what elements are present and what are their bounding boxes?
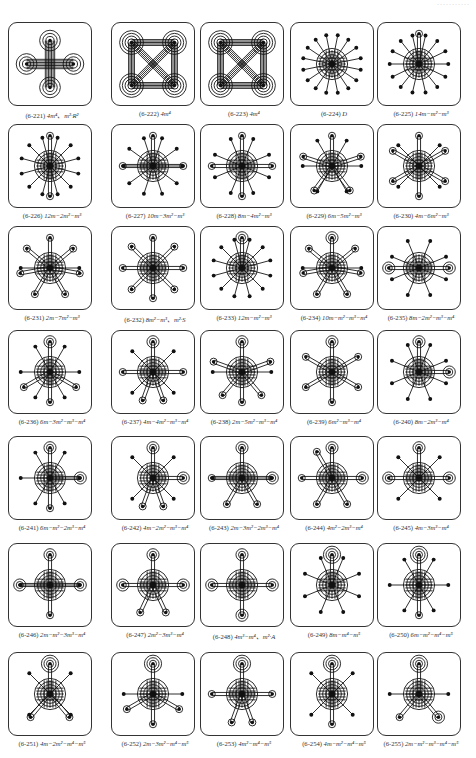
figure-caption: (6-244) 4m²−2m³−m⁴	[284, 524, 384, 531]
figure-diagram	[377, 543, 461, 627]
diagram-icon	[201, 227, 283, 309]
figure-diagram	[200, 436, 284, 520]
figure-diagram	[8, 22, 92, 106]
figure-caption: (6-239) 6m²−m³−m⁴	[284, 418, 384, 425]
figure-formula: 2m−3m²−2m³−m⁴	[230, 524, 279, 531]
figure-formula: 8m−4m²−m³	[238, 212, 272, 219]
figure-formula: 10m−m²−m³−m⁴	[322, 314, 367, 321]
diagram-icon	[378, 23, 460, 105]
diagram-icon	[9, 437, 91, 519]
figure-number: (6-244)	[305, 524, 326, 531]
figure-caption: (6-249) 8m−m⁴−m⁵	[284, 631, 384, 638]
figure-caption: (6-222) 4m⁴	[105, 110, 205, 117]
diagram-icon	[201, 331, 283, 413]
figure-diagram	[200, 226, 284, 310]
figure-diagram	[200, 652, 284, 736]
figure-caption: (6-243) 2m−3m²−2m³−m⁴	[194, 524, 294, 531]
figure-number: (6-222)	[139, 110, 160, 117]
figure-caption: (6-224) D	[284, 110, 384, 117]
figure-formula: 12m−m²−m³	[238, 314, 272, 321]
diagram-icon	[9, 544, 91, 626]
figure-diagram	[377, 226, 461, 310]
figure-formula: 6m−3m²−m³−m⁴	[40, 418, 85, 425]
diagram-icon	[378, 227, 460, 309]
figure-diagram	[111, 436, 195, 520]
figure-diagram	[200, 330, 284, 414]
figure-caption: (6-221) 4m⁴、m²·R²	[2, 110, 102, 120]
figure-number: (6-249)	[308, 631, 329, 638]
figure-caption: (6-252) 2m−3m²−m⁴−m⁵	[105, 740, 205, 747]
figure-formula: 4m−6m²−m³	[415, 212, 449, 219]
diagram-icon	[378, 437, 460, 519]
figure-diagram	[200, 124, 284, 208]
figure-caption: (6-231) 2m−7m²−m³	[2, 314, 102, 321]
figure-caption: (6-254) 4m−m²−m⁴−m⁵	[284, 740, 384, 747]
figure-caption: (6-238) 2m−5m²−m³−m⁴	[194, 418, 294, 425]
diagram-icon	[201, 23, 283, 105]
figure-diagram	[290, 124, 374, 208]
figure-number: (6-225)	[393, 110, 414, 117]
figure-diagram	[8, 543, 92, 627]
figure-diagram	[8, 652, 92, 736]
figure-formula: 4m²−m⁴−m⁵	[238, 740, 271, 747]
diagram-icon	[9, 331, 91, 413]
diagram-icon	[112, 23, 194, 105]
figure-diagram	[377, 330, 461, 414]
diagram-icon	[378, 653, 460, 735]
figure-number: (6-250)	[389, 631, 410, 638]
figure-diagram	[377, 124, 461, 208]
figure-number: (6-233)	[216, 314, 237, 321]
figure-formula: 2m−7m²−m³	[46, 314, 80, 321]
figure-formula: 6m−m²−m⁴−m⁵	[411, 631, 453, 638]
figure-formula: 4m⁴	[161, 110, 171, 117]
figure-number: (6-253)	[217, 740, 238, 747]
figure-caption: (6-234) 10m−m²−m³−m⁴	[284, 314, 384, 321]
figure-caption: (6-228) 8m−4m²−m³	[194, 212, 294, 219]
figure-diagram	[200, 22, 284, 106]
figure-formula: 4m−2m²−m³−m⁴	[143, 524, 188, 531]
figure-diagram	[290, 652, 374, 736]
figure-caption: (6-233) 12m−m²−m³	[194, 314, 294, 321]
figure-diagram	[377, 436, 461, 520]
diagram-icon	[378, 544, 460, 626]
figure-formula: 4m⁴	[250, 110, 260, 117]
figure-formula: 2m²−3m³−m⁴	[148, 631, 184, 638]
figure-caption: (6-227) 10m−3m²−m³	[105, 212, 205, 219]
figure-number: (6-241)	[19, 524, 40, 531]
figure-number: (6-235)	[388, 314, 409, 321]
figure-number: (6-242)	[122, 524, 143, 531]
figure-caption: (6-247) 2m²−3m³−m⁴	[105, 631, 205, 638]
figure-formula: 4m−2m²−m⁴−m⁵	[40, 740, 86, 747]
diagram-icon	[201, 125, 283, 207]
figure-diagram	[8, 226, 92, 310]
figure-caption: (6-250) 6m−m²−m⁴−m⁵	[371, 631, 471, 638]
diagram-icon	[112, 544, 194, 626]
diagram-icon	[9, 653, 91, 735]
figure-formula: 8m−2m²−m³−m⁴	[409, 314, 454, 321]
figure-caption: (6-237) 4m−4m²−m³−m⁴	[105, 418, 205, 425]
figure-caption: (6-245) 4m−3m³−m⁴	[371, 524, 471, 531]
figure-caption: (6-255) 2m−m²−m³−m⁴−m⁵	[371, 740, 471, 747]
figure-caption: (6-235) 8m−2m²−m³−m⁴	[371, 314, 471, 321]
figure-diagram	[377, 652, 461, 736]
figure-caption: (6-242) 4m−2m²−m³−m⁴	[105, 524, 205, 531]
figure-number: (6-236)	[19, 418, 40, 425]
figure-number: (6-254)	[302, 740, 323, 747]
figure-diagram	[111, 652, 195, 736]
figure-formula: D	[342, 110, 347, 117]
figure-number: (6-230)	[393, 212, 414, 219]
figure-caption: (6-241) 6m−m²−2m³−m⁴	[2, 524, 102, 531]
figure-number: (6-245)	[393, 524, 414, 531]
figure-diagram	[290, 436, 374, 520]
diagram-icon	[201, 653, 283, 735]
figure-diagram	[377, 22, 461, 106]
figure-diagram	[290, 226, 374, 310]
figure-diagram	[200, 543, 284, 627]
figure-diagram	[111, 22, 195, 106]
figure-formula: 12m−2m²−m³	[44, 212, 81, 219]
figure-number: (6-231)	[24, 314, 45, 321]
figure-formula: 4m³−m⁴、m²·A	[234, 633, 275, 640]
figure-caption: (6-225) 14m−m²−m³	[371, 110, 471, 117]
figure-formula: 4m²−2m³−m⁴	[327, 524, 363, 531]
figure-number: (6-234)	[301, 314, 322, 321]
